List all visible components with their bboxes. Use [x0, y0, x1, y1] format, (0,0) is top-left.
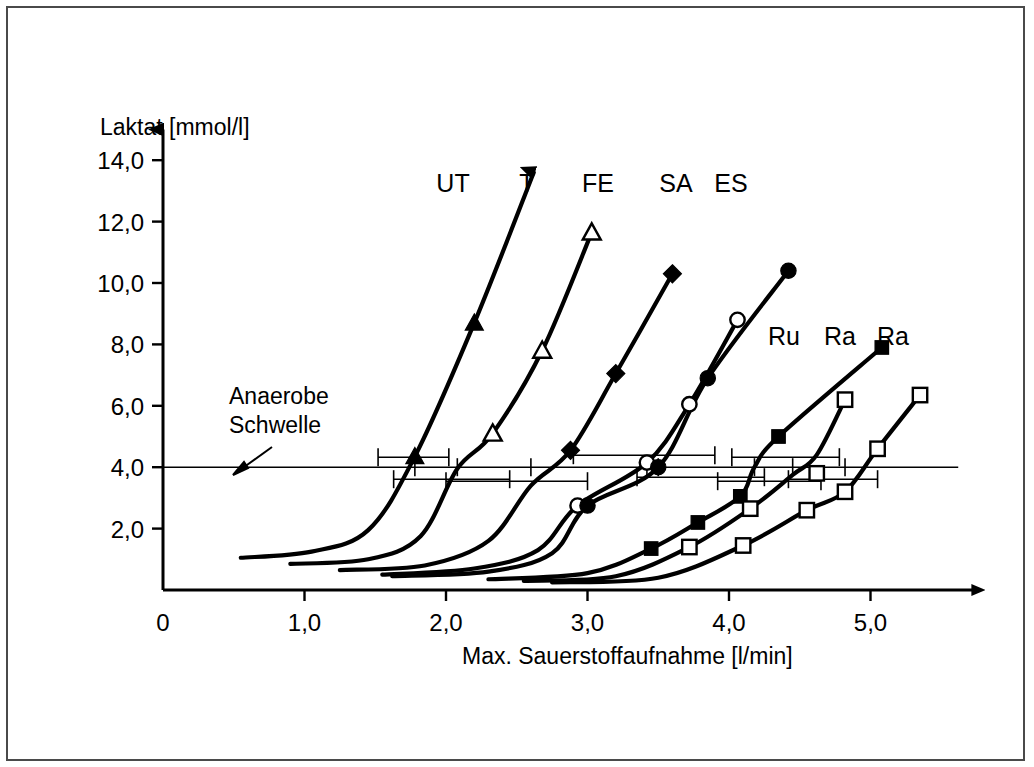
curve-es: [392, 271, 788, 576]
y-tick-label: 2,0: [111, 516, 144, 543]
anaerobic-threshold-annotation: Anaerobe Schwelle: [229, 383, 329, 475]
lactate-performance-chart: 01,02,03,04,05,0 2,04,06,08,010,012,014,…: [0, 0, 1034, 767]
series-label-ra-2: Ra: [877, 322, 909, 350]
data-point-fe: [607, 365, 625, 383]
data-point-sa: [730, 313, 744, 327]
y-tick-label: 4,0: [111, 454, 144, 481]
series-label-sa: SA: [659, 169, 693, 197]
y-tick-label: 14,0: [97, 147, 144, 174]
curve-sa: [382, 320, 737, 575]
x-tick-label: 0: [156, 609, 169, 636]
series-label-fe: FE: [582, 169, 614, 197]
y-axis-title: Laktat [mmol/l]: [100, 114, 250, 140]
x-tick-label: 3,0: [571, 609, 604, 636]
markers-layer: [406, 223, 927, 555]
data-point-ra: [810, 466, 824, 480]
data-point-ra2: [736, 538, 750, 552]
data-point-ra: [682, 540, 696, 554]
data-point-ra: [743, 501, 757, 515]
y-tick-labels: 2,04,06,08,010,012,014,0: [97, 147, 144, 542]
data-point-ra2: [838, 485, 852, 499]
data-point-t: [533, 342, 551, 358]
curves-layer: [241, 172, 920, 582]
x-tick-labels: 01,02,03,04,05,0: [156, 609, 887, 636]
data-point-ra2: [913, 388, 927, 402]
x-axis-title: Max. Sauerstoffaufnahme [l/min]: [462, 643, 793, 669]
data-point-ru: [772, 430, 786, 444]
annotation-line-2: Schwelle: [229, 412, 321, 438]
annotation-line-1: Anaerobe: [229, 383, 329, 409]
x-tick-label: 5,0: [854, 609, 887, 636]
figure-root: 01,02,03,04,05,0 2,04,06,08,010,012,014,…: [0, 0, 1034, 767]
data-point-ut: [465, 314, 483, 330]
data-point-es: [651, 460, 666, 475]
curve-ut: [241, 172, 534, 557]
x-tick-label: 1,0: [288, 609, 321, 636]
data-point-ra: [838, 392, 852, 406]
y-tick-label: 12,0: [97, 209, 144, 236]
annotation-arrow-head: [233, 462, 248, 475]
data-point-es: [700, 371, 715, 386]
series-label-ru: Ru: [768, 322, 800, 350]
data-point-ru: [644, 542, 658, 556]
series-label-t: T: [519, 169, 534, 197]
data-point-ru: [691, 516, 705, 530]
data-point-es: [781, 263, 796, 278]
series-label-es: ES: [714, 169, 747, 197]
axes-layer: [152, 130, 972, 602]
data-point-ut: [406, 447, 424, 463]
error-bar-ra2: [788, 458, 877, 488]
curve-fe: [340, 274, 673, 570]
data-point-sa: [682, 397, 696, 411]
y-tick-label: 10,0: [97, 270, 144, 297]
series-labels: UT T FE SA ES Ru Ra Ra: [436, 169, 909, 350]
error-bar-ru: [718, 458, 821, 490]
series-label-ut: UT: [436, 169, 469, 197]
data-point-ra2: [870, 442, 884, 456]
series-label-ra-1: Ra: [824, 322, 856, 350]
data-point-fe: [663, 265, 681, 283]
data-point-t: [583, 223, 601, 239]
data-point-ra2: [800, 503, 814, 517]
y-tick-label: 8,0: [111, 331, 144, 358]
data-point-es: [580, 498, 595, 513]
y-tick-label: 6,0: [111, 393, 144, 420]
x-tick-label: 4,0: [712, 609, 745, 636]
error-bar-fe: [446, 458, 588, 490]
x-tick-label: 2,0: [429, 609, 462, 636]
